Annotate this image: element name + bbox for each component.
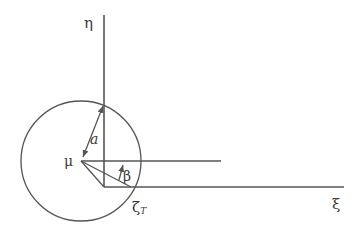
xi-label: ξ: [332, 195, 340, 213]
zeta-subscript: T: [140, 206, 147, 216]
radius-label: a: [90, 131, 98, 147]
eta-label: η: [84, 14, 93, 32]
geometry-diagram: η ξ μ a β ζT: [0, 0, 362, 233]
zeta-base: ζ: [132, 198, 140, 216]
zeta-label: ζT: [132, 198, 147, 216]
mu-to-corner-line: [81, 161, 104, 187]
beta-label: β: [123, 168, 131, 184]
mu-label: μ: [64, 153, 73, 169]
